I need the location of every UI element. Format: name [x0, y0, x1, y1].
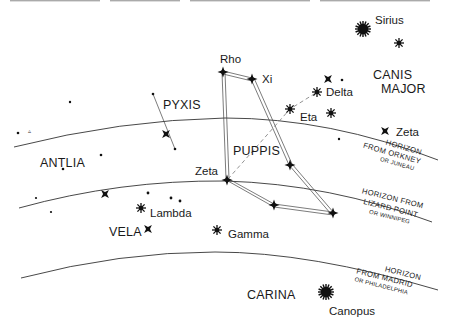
- label-gamma: Gamma: [228, 228, 270, 240]
- label-zeta-cma: Zeta: [396, 126, 420, 138]
- sirius-star-icon: [355, 21, 371, 37]
- horizon-madrid-label: HORIZON FROM MADRID OR PHILADELPHIA: [354, 258, 422, 298]
- puppis-corner-star-icon: [328, 208, 339, 219]
- small-star: [147, 192, 150, 195]
- small-star: [170, 197, 173, 200]
- small-star: [179, 200, 182, 203]
- cma-star2-icon: [320, 71, 336, 87]
- horizon-orkney-label: HORIZON FROM ORKNEY OR JUNEAU: [360, 132, 424, 173]
- zeta-cma-star-icon: [377, 123, 393, 139]
- label-delta: Delta: [326, 86, 353, 98]
- pyxis-top-star: [152, 93, 155, 96]
- constellation-carina: CARINA: [247, 288, 296, 302]
- star-chart: ▵ PYXIS ANTLIA PUPPIS CANIS MAJOR VELA C…: [0, 0, 455, 326]
- cma-star3-icon: [326, 108, 336, 118]
- constellation-antlia: ANTLIA: [40, 156, 85, 170]
- constellation-vela: VELA: [109, 225, 142, 239]
- small-star: [50, 211, 52, 213]
- label-rho: Rho: [220, 53, 241, 65]
- delta-star-icon: [312, 87, 322, 97]
- horizon-lizard-label: HORIZON FROM LIZARD POINT OR WINNIPEG: [357, 186, 424, 226]
- small-star: [17, 132, 20, 135]
- horizon-orkney-line: [14, 118, 438, 160]
- small-star: [338, 138, 340, 140]
- pyxis-bottom-star: [174, 148, 177, 151]
- vela-star-icon: [140, 221, 156, 237]
- gamma-star-icon: [212, 225, 222, 235]
- label-eta: Eta: [300, 111, 318, 123]
- label-canopus: Canopus: [329, 305, 375, 317]
- constellation-puppis: PUPPIS: [233, 144, 280, 158]
- label-sirius: Sirius: [375, 14, 404, 26]
- svg-text:▵: ▵: [28, 128, 31, 134]
- label-xi: Xi: [262, 73, 272, 85]
- constellation-canis: CANIS: [373, 68, 412, 82]
- lambda-star-icon: [136, 203, 146, 213]
- constellation-major: MAJOR: [381, 82, 426, 96]
- zeta-pup-star-icon: [222, 175, 233, 186]
- puppis-mid-star-icon: [285, 160, 296, 171]
- small-star: [69, 101, 71, 103]
- canopus-star-icon: [318, 284, 334, 300]
- top-cutoff-text: [10, 0, 430, 1]
- rho-star-icon: [218, 67, 229, 78]
- small-star: [35, 197, 37, 199]
- small-star: [100, 154, 103, 157]
- label-lambda: Lambda: [150, 207, 192, 219]
- small-star: [341, 79, 344, 82]
- cma-star-icon: [394, 38, 404, 48]
- eta-star-icon: [285, 104, 295, 114]
- constellation-pyxis: PYXIS: [163, 98, 201, 112]
- label-zeta-pup: Zeta: [195, 165, 219, 177]
- puppis-lower-star-icon: [269, 200, 280, 211]
